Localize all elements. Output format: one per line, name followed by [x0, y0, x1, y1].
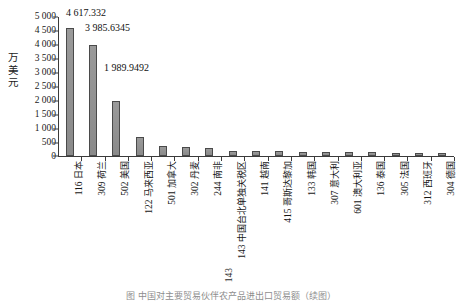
category-code: 305 — [400, 179, 410, 196]
category-name: 澳大利亚 — [353, 161, 363, 197]
bar — [299, 152, 307, 156]
category-name: 日本 — [74, 161, 84, 179]
category-code: 244 — [213, 179, 223, 196]
bar — [205, 148, 213, 156]
x-axis-category-label: 136 泰国 — [376, 161, 387, 196]
bar — [136, 137, 144, 156]
category-name: 哥斯达黎加 — [283, 161, 293, 206]
bar — [182, 147, 190, 156]
category-name: 南非 — [213, 161, 223, 179]
bar — [112, 101, 120, 156]
category-name: 意大利 — [330, 161, 340, 188]
bar-series — [58, 17, 454, 156]
bar — [345, 152, 353, 156]
category-code: 116 — [74, 179, 84, 195]
x-axis-category-label: 502 美国 — [120, 161, 131, 196]
category-code: 136 — [376, 179, 386, 196]
category-name: 丹麦 — [190, 161, 200, 179]
bar — [229, 151, 237, 156]
bar-value-label: 3 985.6345 — [85, 23, 130, 33]
category-name: 美国 — [120, 161, 130, 179]
category-code: 133 — [307, 179, 317, 196]
category-name: 德国 — [446, 161, 456, 179]
x-axis-line — [58, 156, 454, 157]
bar — [368, 152, 376, 156]
bar — [392, 153, 400, 156]
bar — [66, 28, 74, 156]
category-code: 122 — [144, 197, 154, 214]
x-axis-category-label: 244 南非 — [213, 161, 224, 196]
bar-value-label: 1 989.9492 — [104, 63, 149, 73]
x-axis-category-label: 312 西班牙 — [423, 161, 434, 205]
bar — [438, 153, 446, 156]
x-axis-category-label: 141 越南 — [260, 161, 271, 196]
bar-chart: 万 美 元 5 000 4 500 4 000 3 500 3 000 2 50… — [0, 0, 462, 160]
figure-caption: 图 中国对主要贸易伙伴农产品进出口贸易额（续图） — [0, 291, 462, 301]
category-code: 143 — [237, 242, 247, 259]
x-axis-category-labels: 116 日本309 荷兰502 美国122 马来西亚501 加拿大302 丹麦2… — [58, 161, 454, 273]
category-name: 韩国 — [307, 161, 317, 179]
y-tick-label: 0 — [51, 152, 56, 162]
x-axis-category-label: 304 德国 — [446, 161, 457, 196]
x-axis-category-label: 309 荷兰 — [97, 161, 108, 196]
category-name: 中国台北单独关税区 — [237, 161, 247, 242]
category-name: 泰国 — [376, 161, 386, 179]
category-code: 309 — [97, 179, 107, 196]
category-code: 312 — [423, 188, 433, 205]
x-axis-category-label: 143 中国台北单独关税区 — [237, 161, 248, 259]
x-axis-category-label: 307 意大利 — [330, 161, 341, 205]
bar — [275, 151, 283, 156]
category-code: 601 — [353, 197, 363, 214]
category-code: 141 — [260, 179, 270, 196]
bar — [89, 45, 97, 156]
category-code: 307 — [330, 188, 340, 205]
category-code: 304 — [446, 179, 456, 196]
bar — [415, 153, 423, 156]
category-name: 荷兰 — [97, 161, 107, 179]
category-name: 法国 — [400, 161, 410, 179]
bar-value-label: 4 617.332 — [66, 8, 106, 18]
bar — [322, 152, 330, 156]
x-axis-category-label: 415 哥斯达黎加 — [283, 161, 294, 223]
bar — [252, 151, 260, 156]
y-axis-tick-labels: 5 000 4 500 4 000 3 500 3 000 2 500 2 00… — [18, 12, 56, 160]
category-name: 加拿大 — [167, 161, 177, 188]
category-code: 415 — [283, 206, 293, 223]
x-axis-category-label: 133 韩国 — [307, 161, 318, 196]
bar — [159, 146, 167, 156]
x-axis-category-label: 601 澳大利亚 — [353, 161, 364, 214]
category-code: 302 — [190, 179, 200, 196]
category-name: 越南 — [260, 161, 270, 179]
x-axis-category-label: 116 日本 — [74, 161, 85, 195]
category-code: 502 — [120, 179, 130, 196]
category-code: 501 — [167, 188, 177, 205]
x-axis-category-label: 501 加拿大 — [167, 161, 178, 205]
x-axis-category-label: 305 法国 — [400, 161, 411, 196]
category-name: 西班牙 — [423, 161, 433, 188]
category-name: 马来西亚 — [144, 161, 154, 197]
x-axis-category-label: 302 丹麦 — [190, 161, 201, 196]
x-axis-category-label: 122 马来西亚 — [144, 161, 155, 214]
page-number: 143 — [224, 268, 234, 282]
